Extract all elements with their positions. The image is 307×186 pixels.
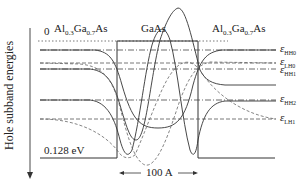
y-axis-label: Hole subband energies	[2, 41, 17, 150]
arrow-left-icon	[119, 171, 124, 175]
level-label-lh1: εLH1	[280, 111, 295, 125]
zero-label: 0	[44, 25, 50, 37]
right-barrier-label: Al0.3Ga0.7As	[212, 22, 266, 37]
well-width-label: 100 A	[146, 166, 173, 178]
wavefunction-hh0	[40, 50, 276, 128]
level-label-hh2: εHH2	[280, 92, 296, 106]
subband-levels	[40, 50, 276, 119]
left-barrier-label: Al0.3Ga0.7As	[54, 22, 108, 37]
level-label-hh1: εHH1	[280, 63, 296, 77]
y-axis-arrow-icon	[27, 172, 33, 179]
arrow-right-icon	[193, 171, 198, 175]
well-label: GaAs	[141, 22, 166, 34]
barrier-depth-label: 0.128 eV	[44, 144, 84, 156]
